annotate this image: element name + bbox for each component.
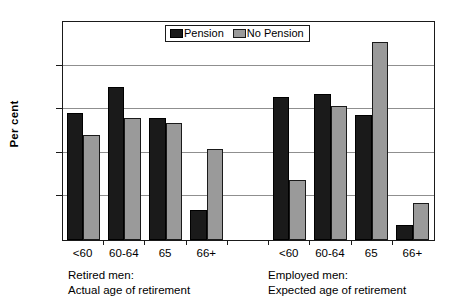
x-axis-tick-mark	[392, 240, 393, 245]
bar-pension	[67, 113, 83, 240]
x-axis-category-label: 66+	[382, 247, 442, 259]
bar-pension	[396, 225, 412, 240]
legend-entry: No Pension	[233, 28, 304, 39]
bar-no-pension	[166, 123, 182, 240]
group-caption-line2: Actual age of retirement	[68, 283, 190, 298]
x-axis-tick-mark	[103, 240, 104, 245]
x-axis-tick-mark	[144, 240, 145, 245]
bar-pension	[149, 118, 165, 240]
bar-pension	[314, 94, 330, 240]
bar-no-pension	[331, 106, 347, 240]
bar-no-pension	[413, 203, 429, 240]
bar-no-pension	[207, 149, 223, 240]
legend-swatch-pension	[170, 29, 183, 38]
group-caption-line1: Retired men:	[68, 268, 190, 283]
group-caption-line1: Employed men:	[268, 268, 406, 283]
bar-pension	[273, 97, 289, 240]
chart-legend: PensionNo Pension	[165, 25, 310, 42]
bar-no-pension	[83, 135, 99, 240]
bar-chart-figure: Per cent 01020304050 <6060-646566+<6060-…	[0, 0, 449, 307]
y-axis-title: Per cent	[8, 89, 20, 159]
bar-pension	[108, 87, 124, 240]
x-axis-tick-mark	[227, 240, 228, 245]
x-axis-category-label: 66+	[176, 247, 236, 259]
x-axis-tick-mark	[186, 240, 187, 245]
plot-area	[62, 21, 435, 241]
group-caption-retired-men: Retired men: Actual age of retirement	[68, 268, 190, 298]
legend-swatch-nopension	[233, 29, 246, 38]
bar-pension	[190, 210, 206, 240]
group-caption-employed-men: Employed men: Expected age of retirement	[268, 268, 406, 298]
bar-no-pension	[124, 118, 140, 240]
bar-no-pension	[372, 42, 388, 240]
x-axis-tick-mark	[309, 240, 310, 245]
x-axis-tick-mark	[351, 240, 352, 245]
bar-pension	[355, 115, 371, 240]
legend-label: Pension	[184, 28, 224, 39]
group-caption-line2: Expected age of retirement	[268, 283, 406, 298]
plot-inner	[63, 22, 434, 240]
x-axis-tick-mark	[268, 240, 269, 245]
legend-entry: Pension	[170, 28, 224, 39]
legend-label: No Pension	[247, 28, 304, 39]
bar-no-pension	[289, 180, 305, 240]
